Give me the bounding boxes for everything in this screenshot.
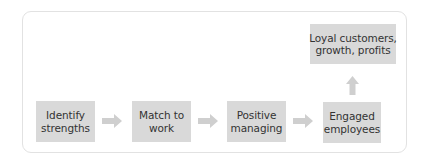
node-identify-strengths: Identify strengths: [36, 101, 95, 142]
node-label-line: Identify: [46, 109, 85, 122]
node-label-line: work: [149, 122, 174, 135]
node-label-line: Match to: [139, 109, 184, 122]
node-label-line: employees: [324, 123, 380, 136]
node-positive-managing: Positive managing: [227, 101, 286, 142]
node-label-line: growth, profits: [315, 44, 390, 57]
arrow-right-icon: [198, 114, 218, 128]
node-label-line: strengths: [41, 122, 90, 135]
node-label-line: Loyal customers,: [309, 32, 397, 45]
node-label-line: Engaged: [329, 110, 374, 123]
node-label-line: managing: [231, 122, 283, 135]
arrow-right-icon: [102, 114, 122, 128]
node-loyal-customers: Loyal customers, growth, profits: [310, 24, 396, 64]
arrow-right-icon: [293, 114, 313, 128]
arrow-up-icon: [346, 76, 359, 95]
node-engaged-employees: Engaged employees: [323, 102, 381, 143]
node-match-to-work: Match to work: [132, 101, 191, 142]
node-label-line: Positive: [237, 109, 277, 122]
